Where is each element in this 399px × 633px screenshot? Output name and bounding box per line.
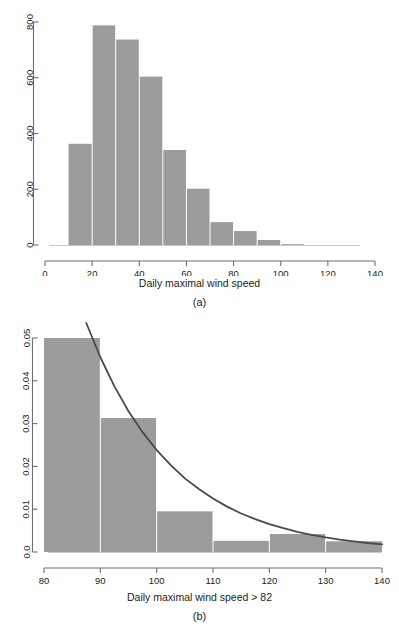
x-tick-label: 140 xyxy=(374,575,390,586)
y-tick-label: 0.01 xyxy=(21,500,32,519)
bar-group xyxy=(44,338,382,552)
chart-panel-a: 0200400600800020406080100120140 xyxy=(0,0,399,316)
y-tick-label: 800 xyxy=(24,14,35,30)
histogram-bar xyxy=(281,244,305,245)
y-tick-label: 0 xyxy=(24,242,35,247)
x-axis-label-b: Daily maximal wind speed > 82 xyxy=(0,591,399,603)
x-axis-label-a: Daily maximal wind speed xyxy=(0,277,399,289)
figure-root: 0200400600800020406080100120140 Daily ma… xyxy=(0,0,399,633)
y-tick-label: 600 xyxy=(24,70,35,86)
histogram-bar xyxy=(116,40,140,245)
histogram-bar xyxy=(92,25,116,245)
histogram-bar xyxy=(163,150,187,245)
x-tick-label: 100 xyxy=(149,575,165,586)
histogram-bar xyxy=(234,231,258,245)
histogram-b: 0.00.010.020.030.040.0580901001101201301… xyxy=(0,316,399,590)
x-axis: 020406080100120140 xyxy=(42,261,383,276)
histogram-a: 0200400600800020406080100120140 xyxy=(0,0,399,276)
y-axis: 0200400600800 xyxy=(24,14,39,248)
x-tick-label: 130 xyxy=(318,575,334,586)
bar-group xyxy=(69,25,305,245)
histogram-bar xyxy=(210,222,234,245)
histogram-bar xyxy=(44,338,100,552)
y-tick-label: 0.03 xyxy=(21,414,32,433)
histogram-bar xyxy=(257,240,281,245)
x-tick-label: 20 xyxy=(87,268,98,276)
y-tick-label: 0.04 xyxy=(21,372,32,391)
histogram-bar xyxy=(213,541,269,552)
x-tick-label: 110 xyxy=(205,575,220,586)
y-tick-label: 400 xyxy=(24,126,35,142)
chart-panel-b: 0.00.010.020.030.040.0580901001101201301… xyxy=(0,316,399,633)
x-tick-label: 80 xyxy=(39,575,50,586)
panel-caption-a: (a) xyxy=(0,296,399,308)
x-tick-label: 120 xyxy=(261,575,277,586)
histogram-bar xyxy=(186,189,210,245)
y-tick-label: 200 xyxy=(24,181,35,197)
histogram-bar xyxy=(139,77,163,245)
histogram-bar xyxy=(157,511,213,552)
x-tick-label: 90 xyxy=(95,575,106,586)
x-tick-label: 40 xyxy=(134,268,145,276)
y-tick-label: 0.05 xyxy=(21,329,32,348)
y-tick-label: 0.0 xyxy=(21,545,32,558)
x-axis: 8090100110120130140 xyxy=(39,568,390,586)
y-axis: 0.00.010.020.030.040.05 xyxy=(21,329,38,559)
histogram-bar xyxy=(69,144,93,245)
x-tick-label: 100 xyxy=(273,268,289,276)
x-tick-label: 120 xyxy=(320,268,336,276)
x-tick-label: 140 xyxy=(367,268,383,276)
y-tick-label: 0.02 xyxy=(21,457,32,476)
panel-caption-b: (b) xyxy=(0,610,399,622)
x-tick-label: 80 xyxy=(228,268,239,276)
x-tick-label: 0 xyxy=(42,268,47,276)
x-tick-label: 60 xyxy=(181,268,192,276)
